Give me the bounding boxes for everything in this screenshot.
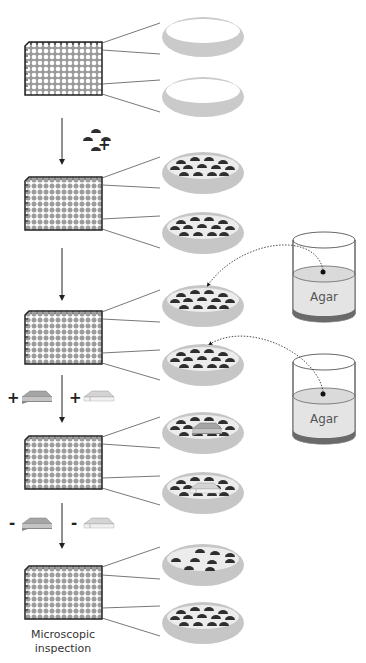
- dish-after-removal: [162, 602, 244, 644]
- agar-beaker: [293, 354, 355, 444]
- dish-after-removal: [162, 544, 244, 586]
- add-sign: +: [98, 136, 111, 154]
- light-coverslip-icon: [84, 391, 114, 401]
- workflow-diagram: [0, 0, 366, 663]
- plate-filled: [25, 566, 102, 619]
- dish-with-agar: [162, 285, 244, 327]
- agar-beaker: [293, 232, 355, 322]
- caption-line: inspection: [18, 642, 108, 656]
- dish-with-agar: [162, 344, 244, 386]
- pipette-source-dot: [321, 270, 326, 275]
- empty-dish: [162, 77, 244, 117]
- plate-filled: [25, 311, 102, 364]
- plate-filled: [25, 436, 102, 489]
- agar-label: Agar: [293, 412, 355, 426]
- add-sign: +: [69, 389, 82, 407]
- dark-coverslip-icon: [22, 391, 52, 404]
- add-sign: +: [7, 389, 20, 407]
- dish-with-organisms: [162, 152, 244, 194]
- dish-with-light-coverslip: [162, 472, 244, 514]
- light-coverslip-icon: [84, 518, 114, 528]
- dish-with-organisms: [162, 212, 244, 254]
- connector-lines: [102, 23, 160, 112]
- dish-with-dark-coverslip: [162, 412, 244, 454]
- dark-coverslip-icon: [22, 518, 52, 531]
- connector-lines: [102, 547, 160, 636]
- caption-line: Microscopic: [18, 628, 108, 642]
- connector-lines: [102, 157, 160, 248]
- plate-empty: [25, 42, 102, 95]
- empty-dish: [162, 17, 244, 57]
- agar-label: Agar: [293, 290, 355, 304]
- remove-sign: -: [9, 514, 15, 532]
- caption: Microscopic inspection: [18, 628, 108, 656]
- connector-lines: [102, 417, 160, 505]
- remove-sign: -: [71, 514, 77, 532]
- connector-lines: [102, 290, 160, 380]
- plate-filled: [25, 177, 102, 230]
- pipette-source-dot: [321, 392, 326, 397]
